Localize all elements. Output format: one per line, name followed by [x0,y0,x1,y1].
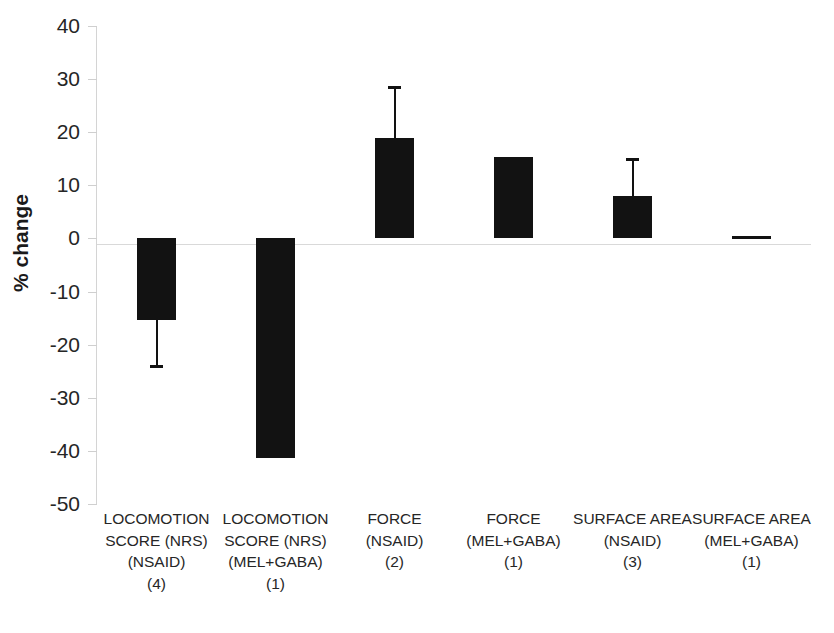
x-category-label-line: (NSAID) [335,530,454,552]
x-category-label: SURFACE AREA(NSAID)(3) [573,508,692,573]
y-axis-tick-labels: 403020100-10-20-30-40-50 [22,0,80,633]
y-tick-mark [88,79,97,80]
x-category-label-line: SCORE (NRS) [216,530,335,552]
y-tick-label: -40 [28,440,80,461]
y-tick-label: -30 [28,387,80,408]
y-tick-mark [88,292,97,293]
x-category-label-line: (1) [692,551,811,573]
y-tick-mark [88,238,97,239]
x-category-label-line: (MEL+GABA) [216,551,335,573]
x-category-label-line: (MEL+GABA) [692,530,811,552]
x-category-label: FORCE(NSAID)(2) [335,508,454,573]
y-tick-label: 40 [28,15,80,36]
x-category-label-line: (MEL+GABA) [454,530,573,552]
bar [494,157,533,238]
error-bar-cap [388,86,401,89]
y-tick-mark [88,451,97,452]
x-category-label-line: SURFACE AREA [692,508,811,530]
x-category-label-line: SCORE (NRS) [97,530,216,552]
x-category-label-line: (4) [97,573,216,595]
x-category-label-line: (3) [573,551,692,573]
x-category-label-line: (NSAID) [573,530,692,552]
x-axis-category-labels: LOCOMOTIONSCORE (NRS)(NSAID)(4)LOCOMOTIO… [97,508,811,628]
error-bar-stem [632,159,634,196]
x-category-label: FORCE(MEL+GABA)(1) [454,508,573,573]
x-category-label-line: SURFACE AREA [573,508,692,530]
x-category-label: LOCOMOTIONSCORE (NRS)(NSAID)(4) [97,508,216,594]
y-tick-mark [88,398,97,399]
error-bar-stem [394,87,396,137]
y-tick-mark [88,185,97,186]
y-tick-mark [88,345,97,346]
y-tick-label: -10 [28,281,80,302]
y-tick-label: 10 [28,174,80,195]
bar [613,196,652,238]
x-category-label-line: (1) [454,551,573,573]
plot-area [97,26,811,504]
bar-chart: % change 403020100-10-20-30-40-50 LOCOMO… [0,0,834,633]
bar [732,236,771,239]
y-tick-label: 20 [28,121,80,142]
x-category-label-line: (NSAID) [97,551,216,573]
y-tick-label: -50 [28,493,80,514]
x-category-label: SURFACE AREA(MEL+GABA)(1) [692,508,811,573]
error-bar-cap [150,365,163,368]
y-tick-label: -20 [28,334,80,355]
x-category-label-line: FORCE [454,508,573,530]
x-category-label-line: (2) [335,551,454,573]
y-tick-mark [88,26,97,27]
x-category-label-line: (1) [216,573,335,595]
x-category-label-line: LOCOMOTION [216,508,335,530]
bar [256,238,295,457]
x-category-label-line: FORCE [335,508,454,530]
error-bar-stem [156,320,158,366]
y-tick-mark [88,504,97,505]
error-bar-cap [626,158,639,161]
x-category-label-line: LOCOMOTION [97,508,216,530]
bar [137,238,176,319]
y-tick-label: 0 [28,227,80,248]
y-tick-label: 30 [28,68,80,89]
bar [375,138,414,239]
x-category-label: LOCOMOTIONSCORE (NRS)(MEL+GABA)(1) [216,508,335,594]
y-tick-mark [88,132,97,133]
zero-baseline [97,244,811,245]
